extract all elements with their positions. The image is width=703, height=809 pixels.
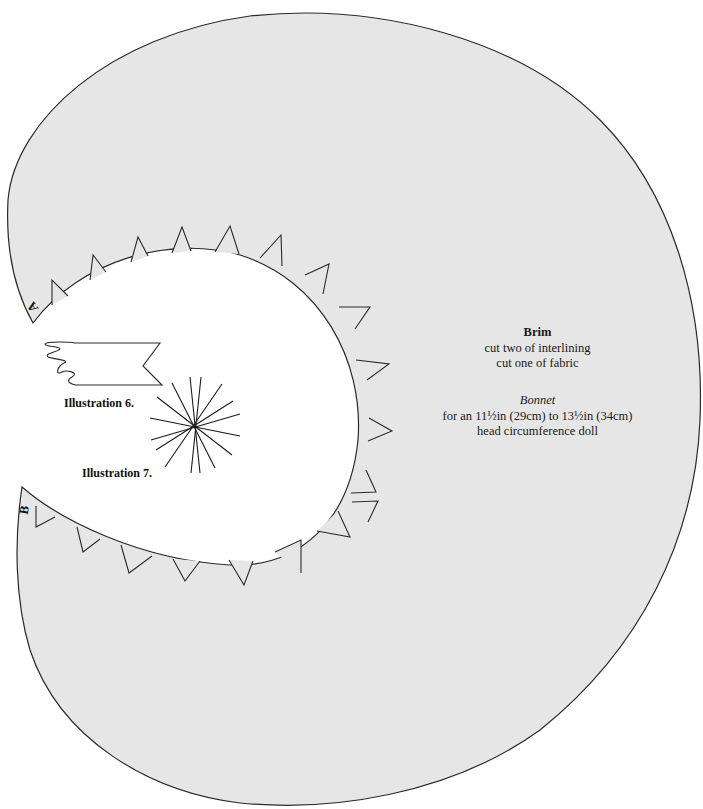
garment-name: Bonnet <box>405 393 670 409</box>
instruction-fabric: cut one of fabric <box>430 356 645 372</box>
size-line-2: head circumference doll <box>405 424 670 440</box>
pattern-info-block: Brim cut two of interlining cut one of f… <box>430 325 645 372</box>
size-line-1: for an 11½in (29cm) to 13½in (34cm) <box>405 409 670 425</box>
illustration-7-caption: Illustration 7. <box>82 466 152 481</box>
starburst-icon <box>150 377 240 473</box>
folded-strip-icon <box>45 342 162 385</box>
illustration-6-caption: Illustration 6. <box>64 396 134 411</box>
piece-name: Brim <box>430 325 645 341</box>
instruction-interlining: cut two of interlining <box>430 341 645 357</box>
garment-info-block: Bonnet for an 11½in (29cm) to 13½in (34c… <box>405 393 670 440</box>
